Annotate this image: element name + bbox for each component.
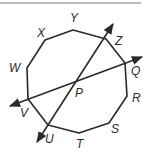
point-label-x: X	[36, 26, 46, 40]
point-label-v: V	[20, 106, 29, 120]
point-label-s: S	[111, 122, 119, 136]
point-label-r: R	[132, 91, 141, 105]
decagon-diagram: YZQRSTUVWXP	[0, 0, 151, 153]
point-label-y: Y	[70, 11, 79, 25]
point-label-p: P	[75, 86, 83, 100]
point-label-w: W	[9, 61, 22, 75]
line-ZU	[37, 24, 113, 142]
point-label-u: U	[45, 132, 54, 146]
point-label-z: Z	[114, 34, 123, 48]
point-label-q: Q	[131, 64, 140, 78]
point-label-t: T	[76, 137, 85, 151]
